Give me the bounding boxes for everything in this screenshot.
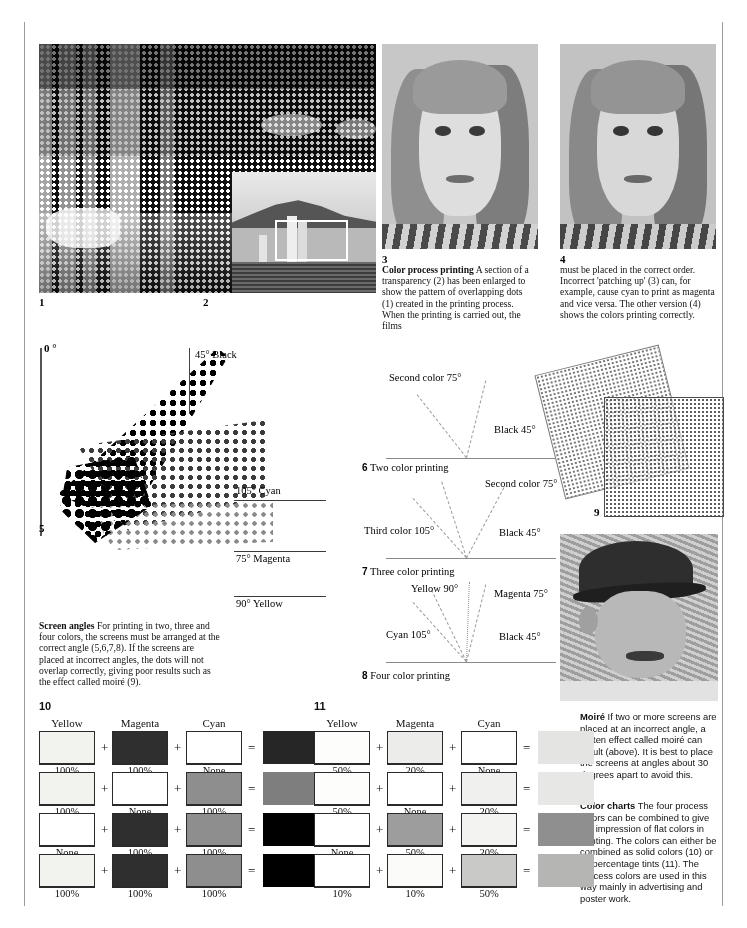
color-chart-percentage-tints: 50%+20%+None=50%+None+20%=None+50%+20%=1… — [314, 731, 594, 897]
portrait2-shoulders — [560, 224, 716, 249]
plus-operator-percentage-tints-row1: + — [449, 740, 456, 756]
plus-operator-percentage-tints-row3: + — [376, 822, 383, 838]
printing-reference-page: 1 2 3 4 Color process printing A sec — [0, 0, 747, 928]
swatch-solid-colors-row3-yellow — [39, 813, 95, 846]
portrait-fringe — [413, 60, 507, 113]
angle-label-magenta: 75° Magenta — [236, 553, 290, 564]
figure-label-2: 2 — [203, 296, 209, 308]
ray-magenta-75 — [431, 590, 467, 662]
plus-operator-solid-colors-row4: + — [174, 863, 181, 879]
swatch-solid-colors-row1-cyan — [186, 731, 242, 764]
left-margin-rule — [24, 22, 25, 906]
swatch-solid-colors-row4-magenta — [112, 854, 168, 887]
plus-operator-solid-colors-row3: + — [101, 822, 108, 838]
caption-color-charts-body: The four process colors can be combined … — [580, 800, 716, 904]
percent-percentage-tints-row4-yellow: 10% — [314, 887, 370, 899]
caption-color-process-heading: Color process printing — [382, 264, 474, 275]
ray-third-color-105 — [466, 487, 504, 558]
plus-operator-solid-colors-row2: + — [174, 781, 181, 797]
swatch-percentage-tints-row3-yellow — [314, 813, 370, 846]
fan-baseline-four-color — [386, 662, 556, 663]
swatch-percentage-tints-row4-magenta — [387, 854, 443, 887]
fan-title-text-8: Four color printing — [370, 670, 450, 681]
angle-label-black: 45° Black — [195, 349, 237, 360]
caption-color-charts: Color charts The four process colors can… — [580, 800, 720, 904]
swatch-percentage-tints-row2-cyan — [461, 772, 517, 805]
photo-moire-portrait — [560, 534, 718, 701]
swatch-percentage-tints-row3-magenta — [387, 813, 443, 846]
fan-baseline-two-color — [386, 458, 556, 459]
plus-operator-solid-colors-row2: + — [101, 781, 108, 797]
caption-color-process-continued: must be placed in the correct order. Inc… — [560, 264, 716, 320]
portrait2-fringe — [591, 60, 685, 113]
plus-operator-solid-colors-row1: + — [101, 740, 108, 756]
zero-degree-axis — [40, 348, 42, 536]
chart10-header-magenta: Magenta — [112, 717, 168, 729]
swatch-percentage-tints-row3-cyan — [461, 813, 517, 846]
equals-operator-percentage-tints-row3: = — [523, 822, 530, 838]
percent-solid-colors-row4-cyan: 100% — [186, 887, 242, 899]
swatch-percentage-tints-row1-magenta — [387, 731, 443, 764]
swatch-percentage-tints-row1-cyan — [461, 731, 517, 764]
portrait-eye-left — [435, 126, 451, 136]
caption-screen-angles-heading: Screen angles — [39, 620, 95, 631]
chart11-header-cyan: Cyan — [461, 717, 517, 729]
black-angle-tick — [189, 348, 190, 414]
moire-photo-face — [595, 591, 687, 678]
caption-moire-heading: Moiré — [580, 711, 605, 722]
fan-label-cyan-105: Cyan 105° — [386, 629, 431, 640]
swatch-solid-colors-row2-magenta — [112, 772, 168, 805]
figure-label-1: 1 — [39, 296, 45, 308]
magenta-angle-rule — [234, 551, 326, 552]
photo-portrait-correct — [560, 44, 716, 249]
swatch-solid-colors-row1-result — [263, 731, 319, 764]
halftone-white-blob — [46, 208, 120, 248]
portrait-shoulders — [382, 224, 538, 249]
caption-screen-angles: Screen angles For printing in two, three… — [39, 620, 221, 687]
swatch-solid-colors-row4-yellow — [39, 854, 95, 887]
cyan-angle-rule — [234, 500, 326, 501]
moire-screen-aligned — [604, 397, 724, 517]
ray-black-45 — [417, 394, 467, 458]
plus-operator-solid-colors-row4: + — [101, 863, 108, 879]
caption-moire: Moiré If two or more screens are placed … — [580, 711, 720, 781]
swatch-percentage-tints-row2-magenta — [387, 772, 443, 805]
swatch-solid-colors-row4-result — [263, 854, 319, 887]
swatch-solid-colors-row3-cyan — [186, 813, 242, 846]
plus-operator-percentage-tints-row4: + — [449, 863, 456, 879]
moire-photo-collar — [560, 681, 718, 701]
caption-color-process-cont-body: must be placed in the correct order. Inc… — [560, 264, 715, 320]
fan-label-second-color-75-b: Second color 75° — [485, 478, 557, 489]
moire-photo-ear — [579, 607, 598, 634]
swatch-solid-colors-row3-magenta — [112, 813, 168, 846]
swatch-solid-colors-row1-yellow — [39, 731, 95, 764]
figure-label-9: 9 — [594, 506, 600, 518]
moire-photo-mouth — [626, 651, 664, 661]
swatch-percentage-tints-row3-result — [538, 813, 594, 846]
halftone-cloud — [261, 114, 322, 136]
fan-baseline-three-color — [386, 558, 556, 559]
fan-label-magenta-75: Magenta 75° — [494, 588, 548, 599]
transparency-tower-c — [259, 235, 266, 262]
fan-label-third-color-105: Third color 105° — [364, 525, 434, 536]
ray-second-color-75-b — [441, 482, 467, 558]
swatch-solid-colors-row3-result — [263, 813, 319, 846]
swatch-percentage-tints-row4-cyan — [461, 854, 517, 887]
swatch-percentage-tints-row4-yellow — [314, 854, 370, 887]
photo-original-transparency — [232, 172, 376, 293]
portrait2-eye-left — [613, 126, 629, 136]
angle-label-yellow: 90° Yellow — [236, 598, 283, 609]
fan-label-yellow-90: Yellow 90° — [411, 583, 458, 594]
fan-title-four-color: 8 Four color printing — [362, 670, 450, 681]
plus-operator-percentage-tints-row2: + — [376, 781, 383, 797]
percent-solid-colors-row4-magenta: 100% — [112, 887, 168, 899]
equals-operator-solid-colors-row3: = — [248, 822, 255, 838]
plus-operator-percentage-tints-row1: + — [376, 740, 383, 756]
equals-operator-solid-colors-row1: = — [248, 740, 255, 756]
chart10-header-yellow: Yellow — [39, 717, 95, 729]
plus-operator-solid-colors-row1: + — [174, 740, 181, 756]
swatch-solid-colors-row2-yellow — [39, 772, 95, 805]
chart-number-10: 10 — [39, 700, 51, 712]
percent-percentage-tints-row4-cyan: 50% — [461, 887, 517, 899]
plus-operator-percentage-tints-row4: + — [376, 863, 383, 879]
